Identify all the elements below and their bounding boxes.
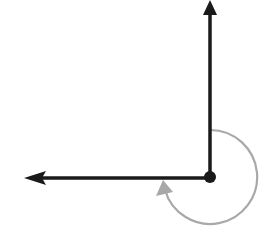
angle-diagram <box>0 0 274 227</box>
up-arrowhead-icon <box>203 0 217 15</box>
vertex-dot <box>204 171 216 183</box>
arc-arrowhead-icon <box>156 180 173 196</box>
diagram-svg <box>0 0 274 227</box>
